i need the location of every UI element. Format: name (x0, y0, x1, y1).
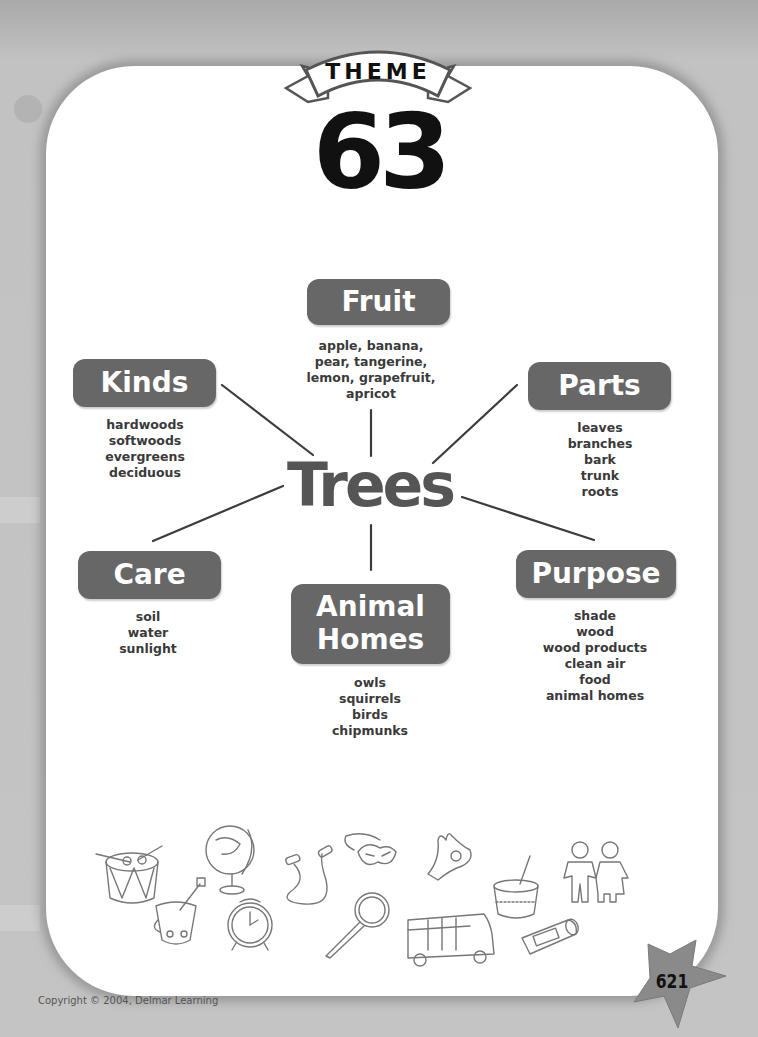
list-item: shade (525, 608, 665, 624)
copyright-notice: Copyright © 2004, Delmar Learning (38, 995, 218, 1006)
label-line: Animal (291, 590, 450, 623)
globe-icon (206, 826, 254, 894)
list-item: trunk (530, 468, 670, 484)
ok-hand-icon (428, 834, 471, 880)
list-item: hardwoods (75, 417, 215, 433)
list-item: pear, tangerine, (300, 354, 442, 370)
list-item: owls (300, 675, 440, 691)
list-item: leaves (530, 420, 670, 436)
list-item: food (525, 672, 665, 688)
list-item: branches (530, 436, 670, 452)
list-item: water (78, 625, 218, 641)
list-item: evergreens (75, 449, 215, 465)
page-number: 621 (643, 970, 700, 992)
branch-fruit-label: Fruit (307, 279, 450, 325)
branch-parts-items: leaves branches bark trunk roots (530, 420, 670, 500)
list-item: apricot (300, 386, 442, 402)
branch-kinds-items: hardwoods softwoods evergreens deciduous (75, 417, 215, 481)
magnifying-glass-icon (326, 893, 389, 958)
list-item: squirrels (300, 691, 440, 707)
drum-icon (96, 846, 162, 903)
list-item: clean air (525, 656, 665, 672)
branch-animal-homes-items: owls squirrels birds chipmunks (300, 675, 440, 739)
list-item: soil (78, 609, 218, 625)
list-item: bark (530, 452, 670, 468)
branch-care-label: Care (78, 551, 221, 599)
list-item: roots (530, 484, 670, 500)
list-item: wood products (525, 640, 665, 656)
list-item: wood (525, 624, 665, 640)
branch-purpose-label: Purpose (516, 550, 676, 598)
center-topic: Trees (270, 455, 470, 515)
branch-animal-homes-label: Animal Homes (291, 584, 450, 664)
pudding-cup-icon (494, 856, 538, 918)
list-item: lemon, grapefruit, (300, 370, 442, 386)
sand-bucket-icon (154, 878, 205, 944)
jump-rope-icon (285, 845, 333, 904)
label-line: Homes (291, 623, 450, 656)
branch-care-items: soil water sunlight (78, 609, 218, 657)
branch-fruit-items: apple, banana, pear, tangerine, lemon, g… (300, 338, 442, 402)
branch-parts-label: Parts (528, 362, 671, 410)
list-item: chipmunks (300, 723, 440, 739)
branch-purpose-items: shade wood wood products clean air food … (525, 608, 665, 704)
illustrations-strip (90, 810, 650, 970)
list-item: birds (300, 707, 440, 723)
glue-stick-icon (522, 917, 580, 954)
list-item: deciduous (75, 465, 215, 481)
paper-dolls-icon (564, 842, 628, 902)
alarm-clock-icon (228, 899, 272, 950)
list-item: softwoods (75, 433, 215, 449)
list-item: apple, banana, (300, 338, 442, 354)
school-bus-icon (408, 914, 494, 966)
list-item: sunlight (78, 641, 218, 657)
branch-kinds-label: Kinds (73, 359, 216, 407)
list-item: animal homes (525, 688, 665, 704)
mask-icon (345, 834, 396, 865)
